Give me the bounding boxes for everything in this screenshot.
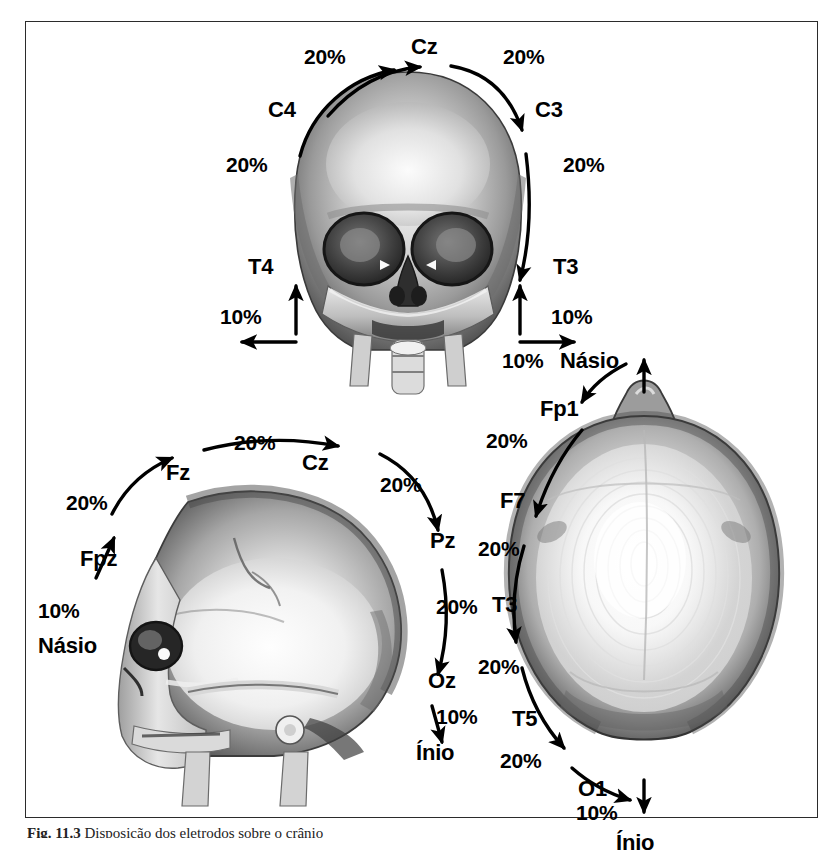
axial-pct-t3-t5: 20% (478, 656, 519, 677)
lateral-label-pz: Pz (430, 530, 455, 552)
lateral-label-fpz: Fpz (80, 548, 117, 570)
coronal-label-c3: C3 (535, 99, 563, 121)
axial-skull-graphic (478, 350, 818, 812)
coronal-pct-cz-c3: 20% (503, 46, 544, 67)
axial-pct-fp1-f7: 20% (486, 430, 527, 451)
figure-caption-label: Fig. 11.3 (27, 826, 81, 838)
arrow-pz-to-oz (438, 570, 446, 674)
lateral-pct-fz-cz: 20% (234, 432, 275, 453)
axial-label-nasio: Násio (560, 350, 619, 372)
lateral-pct-oz-inio: 10% (436, 706, 477, 727)
figure-caption: Fig. 11.3 Disposição dos eletrodos sobre… (27, 826, 817, 838)
lateral-pct-cz-pz: 20% (380, 474, 421, 495)
lateral-pct-pz-oz: 20% (436, 596, 477, 617)
arrow-fpz-to-fz (112, 458, 172, 514)
panel-lateral-view: 10% Násio Fpz 20% Fz 20% Cz 20% Pz 20% O… (38, 430, 468, 810)
lateral-label-cz: Cz (302, 452, 329, 474)
panel-coronal-view: 20% Cz 20% C4 C3 20% 20% T4 T3 10% 10% (208, 34, 608, 394)
axial-pct-nasio-fp1: 10% (502, 350, 543, 371)
coronal-pct-c3: 20% (563, 154, 604, 175)
coronal-pct-t4-c4: 20% (304, 46, 345, 67)
coronal-pct-t3: 10% (551, 306, 592, 327)
panel-axial-view: 10% Násio Fp1 20% F7 20% T3 20% T5 20% O… (478, 350, 818, 812)
figure-caption-text: Disposição dos eletrodos sobre o crânio (81, 826, 323, 838)
axial-label-fp1: Fp1 (540, 398, 579, 420)
coronal-skull-graphic (208, 34, 608, 394)
lateral-label-inio: Ínio (416, 742, 454, 764)
axial-label-o1: O1 (578, 778, 607, 800)
axial-label-f7: F7 (500, 490, 525, 512)
coronal-label-t3: T3 (553, 256, 578, 278)
lateral-label-oz: Oz (428, 670, 456, 692)
axial-pct-o1-inio: 10% (576, 802, 617, 823)
lateral-skull-anatomy (118, 491, 401, 806)
axial-pct-f7-t3: 20% (478, 538, 519, 559)
lateral-pct-fpz-fz: 20% (66, 492, 107, 513)
coronal-label-c4: C4 (268, 99, 296, 121)
axial-label-t5: T5 (512, 708, 537, 730)
lateral-label-nasio: Násio (38, 635, 97, 657)
lateral-pct-nasio-fpz: 10% (38, 600, 79, 621)
axial-label-t3: T3 (492, 594, 517, 616)
coronal-label-cz: Cz (411, 36, 438, 58)
coronal-pct-t4: 10% (220, 306, 261, 327)
coronal-skull-anatomy (290, 72, 526, 394)
coronal-pct-c4: 20% (226, 154, 267, 175)
axial-skull-anatomy (509, 381, 779, 740)
lateral-label-fz: Fz (166, 462, 190, 484)
axial-pct-t5-o1: 20% (500, 750, 541, 771)
coronal-label-t4: T4 (248, 256, 273, 278)
